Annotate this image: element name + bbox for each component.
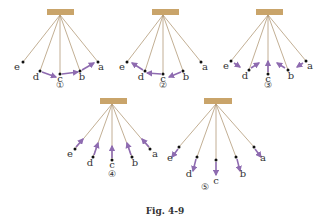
bob-point-e [22,61,25,64]
point-label-b: b [240,168,246,179]
velocity-arrow [82,63,94,70]
point-label-a: a [202,61,208,72]
pendulum-diagram-2: edcba② [119,9,208,90]
ceiling-bar [256,9,283,15]
string-line [268,15,306,61]
bob-point-e [178,146,181,149]
point-label-a: a [98,61,104,72]
string-line [163,15,183,71]
string-line [60,15,80,71]
string-line [60,15,98,62]
velocity-arrow [234,63,240,67]
pendulum-diagram-3: edcba③ [223,9,313,90]
point-label-b: b [183,71,189,82]
diagram-number: ③ [264,80,272,90]
string-line [216,104,254,147]
velocity-arrow [76,139,83,147]
velocity-arrow [193,159,196,171]
point-label-a: a [152,148,158,159]
diagrams-layer: edcba①edcba②edcba③edcba④edcba⑤ [14,9,313,192]
ceiling-bar [47,9,74,15]
point-label-e: e [167,152,173,163]
ceiling-bar [204,98,232,104]
velocity-arrow [62,72,78,74]
bob-point-e [126,61,129,64]
velocity-arrow [142,139,149,147]
string-line [127,15,163,62]
string-line [163,15,201,62]
velocity-arrow [94,143,98,155]
pendulum-diagram-5: edcba⑤ [167,98,266,192]
point-label-e: e [67,148,73,159]
bob-point-d [196,156,199,159]
string-line [145,15,163,71]
point-label-c: c [213,175,219,186]
string-line [268,15,288,70]
velocity-arrow [147,73,161,74]
bob-point-a [253,146,256,149]
point-label-d: d [138,71,145,82]
point-label-b: b [79,71,85,82]
point-label-d: d [33,71,40,82]
string-line [23,15,60,62]
point-label-b: b [288,70,294,81]
diagram-number: ① [56,80,64,90]
point-label-b: b [132,157,138,168]
velocity-arrow [42,72,56,77]
string-line [40,15,60,71]
point-label-e: e [223,60,229,71]
diagram-number: ② [159,80,167,90]
diagram-number: ⑤ [201,182,209,192]
string-line [179,104,216,147]
velocity-arrow [169,72,181,77]
string-line [216,104,236,157]
point-label-d: d [242,70,249,81]
pendulum-diagram-1: edcba① [14,9,104,90]
ceiling-bar [152,9,179,15]
diagram-number: ④ [108,169,116,179]
point-label-e: e [14,61,20,72]
bob-point-e [230,60,233,63]
ceiling-bar [100,98,127,104]
point-label-a: a [307,60,313,71]
point-label-a: a [260,152,266,163]
point-label-d: d [87,157,94,168]
bob-point-b [235,156,238,159]
point-label-d: d [186,168,193,179]
string-line [197,104,216,157]
figure-caption: Fig. 4-9 [146,206,185,216]
velocity-arrow [127,143,131,155]
pendulum-diagram-4: edcba④ [67,98,158,179]
point-label-e: e [119,61,125,72]
bob-point-c [215,159,218,162]
velocity-arrow [251,63,259,68]
pendulum-figure: edcba①edcba②edcba③edcba④edcba⑤ Fig. 4-9 [0,0,330,219]
velocity-arrow [132,63,143,70]
string-line [231,15,268,61]
velocity-arrow [297,63,303,67]
velocity-arrow [277,63,285,68]
bob-point-e [74,148,77,151]
string-line [249,15,268,70]
